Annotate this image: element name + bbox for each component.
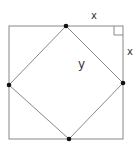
vertex-dot-bottom [67,137,72,142]
outer-square [9,26,123,139]
inner-square [9,26,123,139]
vertex-dot-top [64,24,69,29]
label-top-x: x [91,10,97,21]
label-y: y [78,57,85,71]
square-diagram: x x y [0,0,138,149]
vertex-dot-left [7,83,12,88]
right-angle-marker [114,26,123,35]
vertex-dot-right [121,81,126,86]
label-right-x: x [127,46,133,57]
